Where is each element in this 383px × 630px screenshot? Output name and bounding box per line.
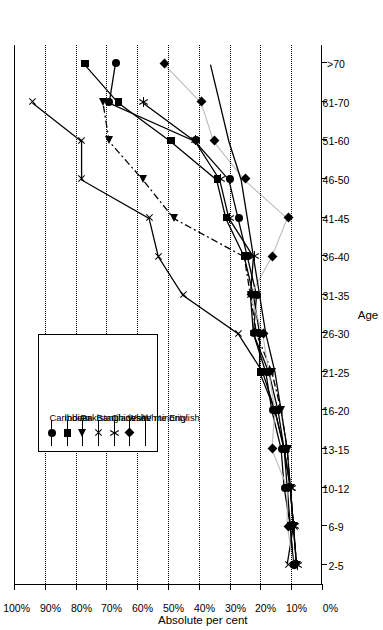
data-point-bangladeshi: [154, 252, 163, 261]
data-point-bangladeshi: [77, 175, 86, 184]
x-axis-tick-label: 21-25: [330, 353, 342, 393]
legend-label-wrap: White minority: [123, 406, 137, 420]
data-point-bangladeshi: [28, 97, 37, 106]
x-axis-title-text: Age: [328, 309, 383, 321]
data-point-chinese: [280, 444, 290, 454]
x-axis-tick-label-text: 36-40: [316, 251, 356, 263]
x-axis-tick-label: >70: [330, 44, 342, 84]
x-axis-tick-label-text: 61-70: [316, 97, 356, 109]
y-axis-tick-label-text: 40%: [181, 602, 215, 614]
x-axis-tick-label: 41-45: [330, 199, 342, 239]
y-axis-tick: [168, 584, 169, 590]
data-point-chinese: [249, 251, 259, 261]
data-point-pakistani: [170, 214, 178, 222]
data-point-chinese: [138, 97, 148, 107]
y-axis-tick-label-text: 0%: [304, 602, 338, 614]
x-axis-tick-label: 61-70: [330, 83, 342, 123]
data-point-caribbean: [112, 59, 120, 67]
data-point-indian: [81, 60, 89, 68]
grid-line: [106, 45, 107, 584]
legend-item-chinese[interactable]: Chinese: [106, 339, 122, 446]
y-axis-title: Absolute per cent: [160, 612, 172, 628]
data-point-pakistani: [139, 175, 147, 183]
y-axis-tick-label: 90%: [38, 591, 50, 625]
legend-label-wrap: Chinese: [107, 406, 121, 420]
y-axis-tick: [260, 584, 261, 590]
legend-item-indian[interactable]: Indian: [60, 339, 76, 446]
x-axis-title: Age: [362, 275, 374, 355]
x-axis-tick-label: 16-20: [330, 391, 342, 431]
grid-line: [199, 45, 200, 584]
y-axis-tick-label: 70%: [99, 591, 111, 625]
grid-line: [260, 45, 261, 584]
y-axis-tick: [291, 584, 292, 590]
grid-line: [76, 45, 77, 584]
y-axis-tick-label-text: 10%: [273, 602, 307, 614]
y-axis-tick: [76, 584, 77, 590]
legend-swatch-triangle-icon: [76, 420, 90, 446]
y-axis-tick-label-text: 70%: [88, 602, 122, 614]
data-point-bangladeshi: [145, 213, 154, 222]
y-axis-tick-label: 20%: [253, 591, 265, 625]
y-axis-tick-label-text: 30%: [212, 602, 246, 614]
legend-swatch-diamond-icon: [123, 420, 137, 446]
grid-line: [168, 45, 169, 584]
y-axis-tick-label-text: 20%: [242, 602, 276, 614]
y-axis-tick-label-text: 80%: [58, 602, 92, 614]
x-axis-tick-label: 36-40: [330, 237, 342, 277]
y-axis-tick: [137, 584, 138, 590]
y-axis-title-text: Absolute per cent: [158, 614, 174, 626]
y-axis-tick-label: 60%: [130, 591, 142, 625]
x-axis-tick-label-text: 6-9: [316, 521, 356, 533]
legend-item-white-english[interactable]: White English: [138, 339, 154, 446]
grid-line: [14, 45, 15, 584]
y-axis-tick: [230, 584, 231, 590]
legend-label-wrap: Bangladeshi: [92, 406, 106, 420]
legend-swatch-circle-icon: [45, 420, 59, 446]
x-axis-tick-label: 51-60: [330, 121, 342, 161]
legend-swatch-star-icon: [107, 420, 121, 446]
x-axis-tick-label-text: 41-45: [316, 213, 356, 225]
y-axis-tick-label-text: 90%: [27, 602, 61, 614]
y-axis-tick-label: 10%: [284, 591, 296, 625]
x-axis-tick-label: 2-5: [330, 546, 342, 586]
y-axis-tick-label: 80%: [69, 591, 81, 625]
data-point-caribbean: [235, 214, 243, 222]
y-axis-tick-label-text: 60%: [119, 602, 153, 614]
y-axis-tick-label: 0%: [315, 591, 327, 625]
legend-box: CaribbeanIndianPakistaniBangladeshiChine…: [38, 334, 158, 452]
x-axis-tick-label-text: 21-25: [316, 367, 356, 379]
x-axis-tick-label-text: 46-50: [316, 174, 356, 186]
legend-item-caribbean[interactable]: Caribbean: [44, 339, 60, 446]
x-axis-tick-label: 6-9: [330, 507, 342, 547]
legend-label: White English: [143, 412, 200, 423]
legend-item-bangladeshi[interactable]: Bangladeshi: [91, 339, 107, 446]
y-axis-tick-label-text: 100%: [0, 602, 30, 614]
grid-line: [137, 45, 138, 584]
plot-area: [14, 45, 322, 585]
legend-swatch-square-icon: [60, 420, 74, 446]
legend-item-white-minority[interactable]: White minority: [122, 339, 138, 446]
grid-line: [230, 45, 231, 584]
x-axis-tick-label-text: 2-5: [316, 560, 356, 572]
x-axis-tick-label: 13-15: [330, 430, 342, 470]
x-axis-tick-label-text: >70: [316, 58, 356, 70]
legend-label-wrap: White English: [138, 406, 152, 420]
legend-swatch-none-icon: [138, 420, 152, 446]
x-axis-tick-label-text: 16-20: [316, 405, 356, 417]
y-axis-tick: [199, 584, 200, 590]
grid-line: [291, 45, 292, 584]
data-point-bangladeshi: [179, 290, 188, 299]
data-point-indian: [115, 98, 123, 106]
x-axis-tick-label: 46-50: [330, 160, 342, 200]
x-axis-tick-label-text: 26-30: [316, 328, 356, 340]
x-axis-tick-label-text: 51-60: [316, 135, 356, 147]
y-axis-tick: [45, 584, 46, 590]
data-point-bangladeshi: [234, 329, 243, 338]
legend-label-wrap: Caribbean: [45, 406, 59, 420]
legend-item-pakistani[interactable]: Pakistani: [75, 339, 91, 446]
data-point-bangladeshi: [77, 136, 86, 145]
data-point-chinese: [215, 174, 225, 184]
